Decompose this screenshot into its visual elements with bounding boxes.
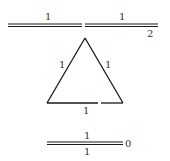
top-bond-end-label: 2: [147, 28, 153, 39]
triangle-right-label: 1: [105, 59, 111, 70]
triangle-bottom-label: 1: [83, 105, 89, 116]
top-bond-label-left: 1: [45, 11, 51, 22]
bottom-bond-label-above: 1: [84, 130, 90, 141]
bottom-bond-end-label: 0: [125, 138, 131, 149]
top-double-bond: [8, 24, 158, 27]
triangle-left-label: 1: [59, 59, 65, 70]
top-bond-label-right: 1: [119, 11, 125, 22]
diagram-canvas: 1 1 2 1 1 1 1 1 0: [0, 0, 170, 161]
triangle: [47, 38, 123, 103]
bottom-bond-label-below: 1: [84, 146, 90, 157]
bottom-double-bond: [47, 142, 123, 145]
